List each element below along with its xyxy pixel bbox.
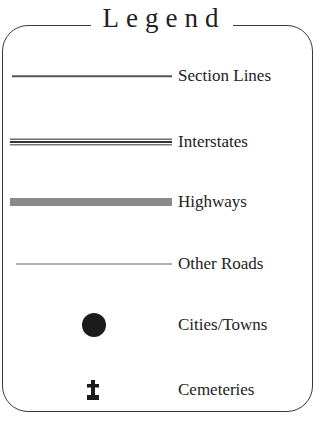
highway-line-icon	[10, 198, 172, 206]
legend-label: Section Lines	[178, 66, 271, 86]
city-dot-icon	[82, 313, 106, 337]
legend-label: Other Roads	[178, 254, 263, 274]
legend-item-highways: Highways	[0, 187, 324, 217]
section-line-icon	[12, 75, 172, 77]
other-road-line-icon	[16, 264, 172, 265]
interstate-line-icon	[10, 139, 172, 146]
legend-item-interstates: Interstates	[0, 127, 324, 157]
legend-label: Cities/Towns	[178, 315, 267, 335]
legend-label: Highways	[178, 192, 247, 212]
legend-item-cities-towns: Cities/Towns	[0, 310, 324, 340]
cemetery-cross-icon	[86, 380, 100, 400]
legend-item-section-lines: Section Lines	[0, 61, 324, 91]
legend-item-cemeteries: Cemeteries	[0, 375, 324, 405]
legend-title-wrap: Legend	[0, 4, 324, 32]
legend-label: Cemeteries	[178, 380, 254, 400]
legend-item-other-roads: Other Roads	[0, 249, 324, 279]
legend-title: Legend	[91, 4, 234, 32]
legend-label: Interstates	[178, 132, 248, 152]
